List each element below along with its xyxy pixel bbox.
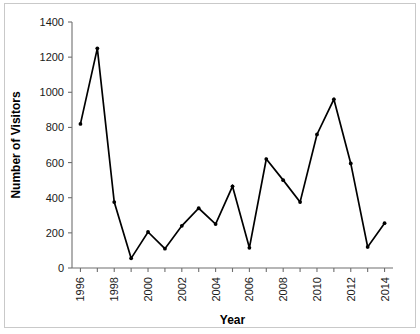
y-tick-label: 200 bbox=[46, 227, 64, 239]
data-point-marker bbox=[315, 133, 319, 137]
data-point-marker bbox=[298, 200, 302, 204]
x-tick-label: 2002 bbox=[176, 277, 188, 301]
data-point-marker bbox=[264, 157, 268, 161]
x-tick-label: 2006 bbox=[243, 277, 255, 301]
line-chart-plot: 0200400600800100012001400 19961998200020… bbox=[0, 0, 420, 334]
data-point-marker bbox=[231, 184, 235, 188]
data-point-marker bbox=[332, 97, 336, 101]
x-tick-label: 2014 bbox=[379, 277, 391, 301]
data-point-marker bbox=[129, 256, 133, 260]
series-polyline bbox=[80, 48, 384, 258]
y-tick-label: 400 bbox=[46, 192, 64, 204]
data-point-marker bbox=[281, 178, 285, 182]
data-point-marker bbox=[163, 247, 167, 251]
y-tick-label: 1000 bbox=[40, 86, 64, 98]
y-tick-label: 1200 bbox=[40, 51, 64, 63]
data-point-marker bbox=[349, 162, 353, 166]
data-point-marker bbox=[146, 230, 150, 234]
data-point-marker bbox=[112, 200, 116, 204]
x-axis: 1996199820002002200420062008201020122014 bbox=[72, 268, 393, 301]
x-tick-label: 1996 bbox=[74, 277, 86, 301]
chart-figure: 0200400600800100012001400 19961998200020… bbox=[0, 0, 420, 334]
y-tick-label: 800 bbox=[46, 121, 64, 133]
x-tick-label: 2012 bbox=[345, 277, 357, 301]
data-point-marker bbox=[79, 122, 83, 126]
visitors-series bbox=[79, 46, 387, 260]
y-tick-label: 0 bbox=[58, 262, 64, 274]
data-point-marker bbox=[180, 224, 184, 228]
y-tick-label: 600 bbox=[46, 157, 64, 169]
y-tick-label: 1400 bbox=[40, 16, 64, 28]
data-point-marker bbox=[366, 245, 370, 249]
x-tick-label: 2004 bbox=[210, 277, 222, 301]
y-axis: 0200400600800100012001400 bbox=[40, 16, 72, 274]
x-tick-label: 1998 bbox=[108, 277, 120, 301]
x-tick-label: 2008 bbox=[277, 277, 289, 301]
x-tick-label: 2000 bbox=[142, 277, 154, 301]
data-point-marker bbox=[247, 246, 251, 250]
data-point-marker bbox=[95, 46, 99, 50]
x-axis-title: Year bbox=[220, 313, 246, 327]
y-axis-title: Number of Visitors bbox=[9, 91, 23, 198]
x-tick-label: 2010 bbox=[311, 277, 323, 301]
data-point-marker bbox=[383, 221, 387, 225]
data-point-marker bbox=[214, 222, 218, 226]
data-point-marker bbox=[197, 206, 201, 210]
